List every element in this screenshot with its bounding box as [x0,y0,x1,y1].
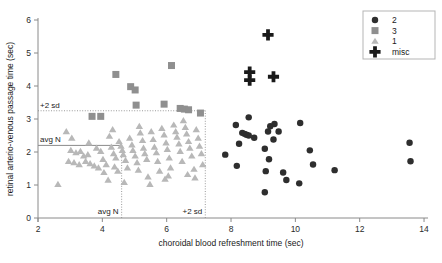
data-point-1-44 [154,158,161,164]
x-tick-label-6: 6 [164,224,169,234]
data-point-2-13 [275,128,281,134]
data-point-1-79 [85,139,92,145]
data-point-1-73 [104,177,111,183]
data-point-1-33 [135,167,142,173]
data-point-1-54 [173,134,180,140]
data-point-1-31 [131,152,138,158]
data-point-1-57 [178,158,185,164]
data-point-1-27 [124,164,131,170]
data-point-2-18 [280,169,286,175]
annotation-label-x-plus-2sd: +2 sd [182,207,202,216]
data-point-1-77 [184,171,191,177]
data-point-1-36 [140,145,147,151]
data-point-1-30 [129,147,136,153]
data-point-1-42 [151,144,158,150]
data-point-2-14 [270,136,276,142]
reference-lines-group [38,111,205,218]
x-axis-title: choroidal blood refreshment time (sec) [158,238,303,248]
data-point-1-14 [102,161,109,167]
data-point-1-29 [128,141,135,147]
data-point-1-55 [175,140,182,146]
data-point-2-17 [263,168,269,174]
data-point-1-66 [194,135,201,141]
data-point-1-48 [162,139,169,145]
data-point-2-9 [234,163,240,169]
y-tick-label-2: 2 [26,147,31,157]
data-point-3-2 [132,86,139,93]
data-points-group [54,29,414,195]
x-tick-label-2: 2 [36,224,41,234]
annotation-label-y-avg-n: avg N [40,135,61,144]
data-point-3-0 [112,71,119,78]
data-point-1-46 [158,125,165,131]
data-point-3-4 [133,102,140,109]
data-point-3-3 [168,62,175,69]
data-point-1-47 [160,131,167,137]
data-point-3-9 [197,110,204,117]
data-point-1-68 [198,150,205,156]
legend-label-3: 3 [392,26,397,36]
data-point-1-13 [99,156,106,162]
data-point-1-75 [146,181,153,187]
y-tick-label-1: 1 [26,180,31,190]
data-point-1-37 [141,150,148,156]
data-point-2-1 [233,122,239,128]
data-point-misc-2 [244,74,255,85]
data-point-1-64 [190,166,197,172]
data-point-1-70 [65,158,72,164]
data-point-2-16 [266,156,272,162]
y-tick-label-6: 6 [26,15,31,25]
data-point-1-61 [185,138,192,144]
data-point-1-62 [186,145,193,151]
data-point-2-21 [307,147,313,153]
data-point-2-6 [251,135,257,141]
x-tick-label-12: 12 [355,224,365,234]
legend: 231misc [363,11,435,59]
data-point-1-52 [170,121,177,127]
data-point-3-8 [185,106,192,113]
data-point-1-38 [143,156,150,162]
annotation-label-x-avg-n: avg N [98,207,119,216]
y-tick-label-0: 0 [26,213,31,223]
data-point-1-35 [139,137,146,143]
legend-label-2: 2 [392,15,397,25]
data-point-1-83 [191,174,198,180]
scatter-plot-figure: 24681012140123456 avg N+2 sdavg N+2 sd c… [0,0,442,263]
data-point-1-34 [137,129,144,135]
legend-label-1: 1 [392,36,397,46]
data-point-1-71 [70,159,77,165]
legend-marker-square-icon [372,27,379,34]
data-point-1-41 [149,136,156,142]
x-tick-label-4: 4 [100,224,105,234]
series-1 [54,117,206,187]
data-point-2-0 [245,114,251,120]
data-point-1-4 [77,148,84,154]
data-point-2-15 [262,145,268,151]
data-point-1-26 [122,157,129,163]
data-point-1-50 [166,154,173,160]
data-point-2-19 [283,177,289,183]
data-point-1-60 [183,130,190,136]
data-point-1-51 [167,164,174,170]
series-2 [222,114,414,195]
annotation-labels-group: avg N+2 sdavg N+2 sd [40,101,202,216]
data-point-1-17 [108,144,115,150]
data-point-1-43 [153,149,160,155]
annotation-label-y-plus-2sd: +2 sd [40,101,60,110]
y-tick-label-5: 5 [26,48,31,58]
y-tick-label-4: 4 [26,81,31,91]
data-point-2-23 [331,167,337,173]
data-point-1-67 [196,143,203,149]
data-point-1-78 [68,135,75,141]
y-tick-label-3: 3 [26,114,31,124]
data-point-1-74 [121,179,128,185]
data-point-2-8 [222,151,228,157]
data-point-2-22 [310,161,316,167]
data-point-1-45 [156,168,163,174]
plot-canvas: 24681012140123456 avg N+2 sdavg N+2 sd c… [0,0,442,263]
data-point-1-80 [109,126,116,132]
data-point-2-25 [262,189,268,195]
y-axis-title: retinal arterio-venous passage time (sec… [5,42,15,196]
data-point-1-69 [199,161,206,167]
data-point-1-39 [144,173,151,179]
